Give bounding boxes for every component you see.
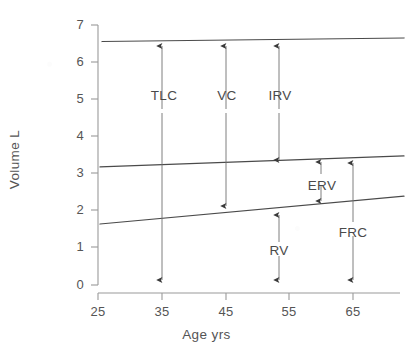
annotation-label-irv: IRV (259, 88, 301, 103)
x-tick-label-35: 35 (147, 304, 177, 319)
y-axis-title: Volume L (7, 110, 22, 210)
x-tick-label-25: 25 (83, 304, 113, 319)
x-tick-label-45: 45 (211, 304, 241, 319)
lung-volume-age-chart: 7 6 5 4 3 2 1 0 25 35 45 55 65 Age yrs V… (0, 0, 413, 357)
frc-boundary-line (100, 156, 404, 167)
x-tick-label-65: 65 (338, 304, 368, 319)
y-tick-label-2: 2 (62, 202, 84, 217)
x-axis-ticks (98, 293, 353, 300)
x-tick-label-55: 55 (274, 304, 304, 319)
x-axis-title: Age yrs (0, 327, 413, 342)
data-lines (100, 38, 404, 224)
tlc-line (102, 38, 404, 42)
rv-boundary-line (100, 196, 404, 224)
y-tick-label-3: 3 (62, 165, 84, 180)
y-tick-label-6: 6 (62, 54, 84, 69)
annotation-label-tlc: TLC (143, 88, 185, 103)
annotation-label-frc: FRC (331, 225, 375, 240)
annotation-label-erv: ERV (300, 178, 344, 193)
annotation-label-rv: RV (260, 243, 298, 258)
annotation-label-vc: VC (207, 88, 247, 103)
y-tick-label-5: 5 (62, 91, 84, 106)
y-tick-label-4: 4 (62, 128, 84, 143)
x-axis (98, 293, 400, 300)
y-tick-label-0: 0 (62, 277, 84, 292)
y-tick-label-7: 7 (62, 17, 84, 32)
y-axis-ticks (91, 25, 98, 285)
y-tick-label-1: 1 (62, 239, 84, 254)
y-axis (91, 25, 98, 285)
